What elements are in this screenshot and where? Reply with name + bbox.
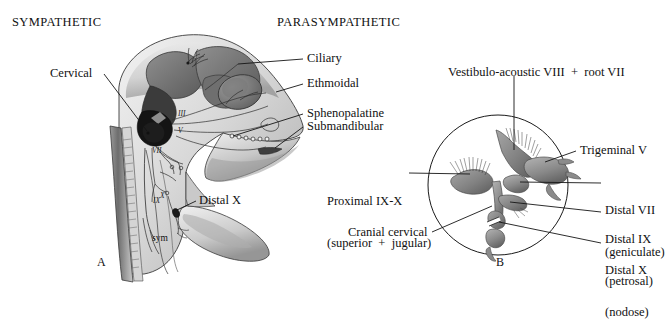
cervical-ganglion-dot [146, 131, 149, 134]
panel-a-letter: A [97, 256, 106, 269]
label-distal-x-panel-b: Distal X (nodose) [605, 235, 649, 323]
label-proximal-ix-x-line1: Proximal IX-X [327, 194, 431, 208]
panel-b-illustration [409, 76, 601, 261]
label-vestibulo-acoustic: Vestibulo-acoustic VIII + root VII [448, 66, 625, 80]
label-cervical: Cervical [50, 67, 92, 81]
label-ethmoidal: Ethmoidal [307, 77, 359, 91]
header-parasympathetic: PARASYMPATHETIC [277, 16, 400, 30]
cranial-cervical-ganglion [486, 229, 505, 248]
label-cranial-cervical: Cranial cervical [348, 226, 427, 240]
label-submandibular: Submandibular [307, 120, 383, 134]
trigeminal-branch-2 [566, 172, 581, 179]
header-sympathetic: SYMPATHETIC [12, 16, 101, 30]
nerve-mark-v: V [178, 127, 183, 135]
ciliary-node [186, 61, 189, 64]
label-trigeminal: Trigeminal V [580, 144, 647, 158]
trigeminal-branch-1 [558, 159, 574, 164]
label-proximal-ix-x: Proximal IX-X (superior + jugular) [327, 166, 431, 278]
label-distal-x-line1: Distal X [605, 263, 649, 277]
label-distal-x-line2: (nodose) [605, 305, 649, 319]
nerve-mark-vii: VII [152, 147, 162, 155]
label-distal-x-panel-a: Distal X [199, 194, 241, 208]
nerve-mark-x: X [160, 192, 165, 200]
nerve-mark-sym: sym [152, 233, 168, 243]
label-ciliary: Ciliary [307, 52, 342, 66]
nerve-mark-iii: III [178, 110, 186, 118]
panel-b-letter: B [496, 256, 504, 269]
panel-a-illustration [104, 35, 303, 282]
